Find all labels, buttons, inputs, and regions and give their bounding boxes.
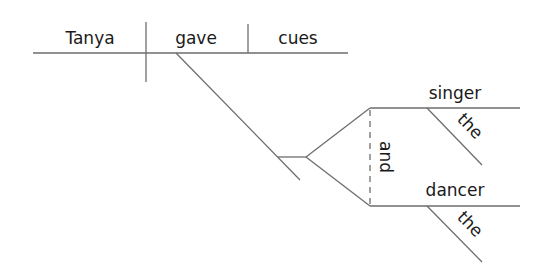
sentence-diagram: Tanya gave cues and singer dancer the th…: [0, 0, 549, 280]
conjunction-word: and: [376, 141, 396, 173]
direct-object-word: cues: [278, 28, 318, 48]
indirect-object-slant: [176, 53, 300, 180]
verb-word: gave: [175, 28, 217, 48]
singer-word: singer: [429, 83, 482, 103]
dancer-word: dancer: [426, 180, 485, 200]
singer-modifier-word: the: [453, 109, 487, 143]
dancer-modifier-word: the: [453, 207, 487, 241]
subject-word: Tanya: [64, 28, 114, 48]
fork-lower-branch: [306, 157, 370, 206]
fork-upper-branch: [306, 108, 370, 157]
